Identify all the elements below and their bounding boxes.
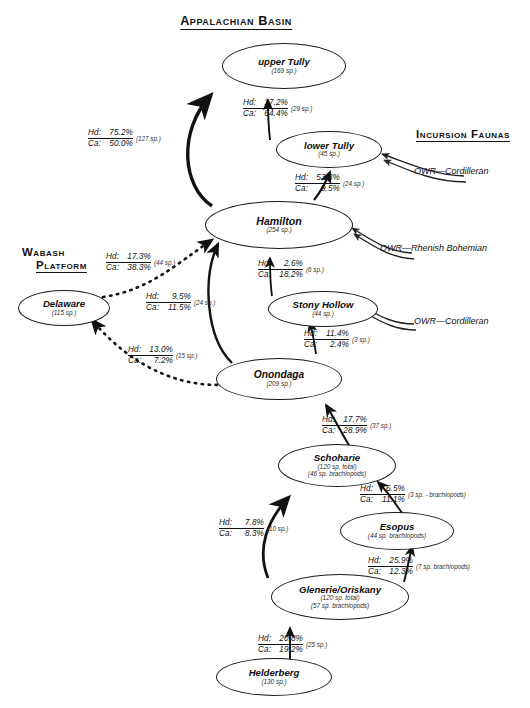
edge-label-glenerie-to-schoharie: Hd:7.8% Ca:8.3% (10 sp.) bbox=[219, 518, 264, 538]
node-sublabel-2: (57 sp. brachiopods) bbox=[311, 603, 369, 610]
edge-label-schoharie-to-onondaga: Hd:17.7% Ca:28.9% (37 sp.) bbox=[322, 415, 367, 435]
node-delaware[interactable]: Delaware (115 sp.) bbox=[18, 290, 110, 326]
hd-value: 9.5% bbox=[161, 292, 191, 301]
node-onondaga[interactable]: Onondaga (209 sp.) bbox=[216, 358, 342, 400]
ca-key: Ca: bbox=[146, 303, 161, 312]
node-esopus[interactable]: Esopus (44 sp. brachiopods) bbox=[340, 512, 454, 550]
ca-key: Ca: bbox=[219, 529, 234, 538]
node-schoharie[interactable]: Schoharie (120 sp. total) (46 sp. brachi… bbox=[278, 444, 396, 487]
ca-value: 7.2% bbox=[143, 356, 173, 365]
ca-value: 9.5% bbox=[310, 184, 340, 193]
edge-label-onondaga-to-hamilton: Hd:9.5% Ca:11.5% (24 sp.) bbox=[146, 292, 191, 312]
hd-key: Hd: bbox=[322, 415, 337, 424]
species-count: (24 sp.) bbox=[194, 299, 215, 306]
node-sublabel: (44 sp. brachiopods) bbox=[368, 533, 426, 540]
node-sublabel: (115 sp.) bbox=[52, 310, 77, 317]
node-label: Delaware bbox=[43, 299, 85, 309]
hd-value: 53.3% bbox=[310, 173, 340, 182]
node-lower-tully[interactable]: lower Tully (45 sp.) bbox=[276, 131, 382, 168]
edge-label-hamilton-to-lower-tully: Hd:53.3% Ca:9.5% (24 sp.) bbox=[295, 173, 340, 193]
hd-value: 2.6% bbox=[273, 259, 303, 268]
species-count: (6 sp.) bbox=[306, 266, 324, 273]
species-count: (44 sp.) bbox=[154, 259, 175, 266]
node-sublabel: (45 sp.) bbox=[318, 151, 340, 158]
ca-key: Ca: bbox=[106, 263, 121, 272]
hd-value: 17.2% bbox=[258, 98, 288, 107]
node-label: Esopus bbox=[380, 522, 415, 532]
ca-key: Ca: bbox=[295, 184, 310, 193]
node-sublabel-2: (46 sp. brachiopods) bbox=[308, 471, 366, 478]
ca-key: Ca: bbox=[304, 340, 319, 349]
hd-key: Hd: bbox=[88, 128, 103, 137]
edge-label-onondaga-to-stony-hollow: Hd:11.4% Ca:2.4% (3 sp.) bbox=[304, 329, 349, 349]
ca-key: Ca: bbox=[258, 270, 273, 279]
species-count: (127 sp.) bbox=[136, 135, 161, 142]
hd-value: 17.7% bbox=[337, 415, 367, 424]
edge-label-lower-tully-to-upper-tully: Hd:17.2% Ca:64.4% (29 sp.) bbox=[243, 98, 288, 118]
hd-value: 25.9% bbox=[383, 556, 413, 565]
node-sublabel: (209 sp.) bbox=[266, 381, 291, 388]
label-owr-cordilleran-stony: OWR—Cordilleran bbox=[414, 316, 489, 326]
species-count: (37 sp.) bbox=[370, 422, 391, 429]
node-label: Glenerie/Oriskany bbox=[299, 585, 381, 595]
species-count: (10 sp.) bbox=[267, 525, 288, 532]
hd-key: Hd: bbox=[219, 518, 234, 527]
node-label: Helderberg bbox=[249, 668, 300, 678]
heading-incursion-faunas: Incursion Faunas bbox=[416, 128, 510, 142]
edge-label-stony-hollow-to-hamilton: Hd:2.6% Ca:18.2% (6 sp.) bbox=[258, 259, 303, 279]
hd-value: 11.4% bbox=[319, 329, 349, 338]
hd-key: Hd: bbox=[258, 259, 273, 268]
hd-key: Hd: bbox=[258, 634, 273, 643]
species-count: (29 sp.) bbox=[291, 105, 312, 112]
ca-key: Ca: bbox=[322, 426, 337, 435]
ca-key: Ca: bbox=[368, 567, 383, 576]
node-sublabel: (130 sp.) bbox=[261, 679, 286, 686]
node-glenerie-oriskany[interactable]: Glenerie/Oriskany (120 sp. total) (57 sp… bbox=[271, 574, 409, 620]
hd-key: Hd: bbox=[295, 173, 310, 182]
node-label: Onondaga bbox=[254, 370, 304, 381]
node-label: Stony Hollow bbox=[293, 300, 354, 310]
hd-value: 17.3% bbox=[121, 252, 151, 261]
ca-value: 12.3% bbox=[383, 567, 413, 576]
ca-value: 11.5% bbox=[161, 303, 191, 312]
ca-value: 28.9% bbox=[337, 426, 367, 435]
edge-label-onondaga-to-delaware: Hd:13.0% Ca:7.2% (15 sp.) bbox=[128, 345, 173, 365]
heading-appalachian-basin: Appalachian Basin bbox=[180, 14, 292, 30]
ca-value: 50.0% bbox=[103, 139, 133, 148]
edge-glenerie-to-schoharie bbox=[263, 498, 288, 578]
hd-key: Hd: bbox=[243, 98, 258, 107]
node-helderberg[interactable]: Helderberg (130 sp.) bbox=[216, 658, 332, 696]
ca-value: 19.2% bbox=[273, 645, 303, 654]
node-label: upper Tully bbox=[258, 57, 310, 67]
diagram-canvas: Appalachian Basin Incursion Faunas Wabas… bbox=[0, 0, 530, 708]
node-label: Schoharie bbox=[314, 453, 360, 463]
hd-value: 7.8% bbox=[234, 518, 264, 527]
edge-label-hamilton-to-upper-tully: Hd:75.2% Ca:50.0% (127 sp.) bbox=[88, 128, 133, 148]
ca-value: 11.1% bbox=[375, 495, 405, 504]
node-label: Hamilton bbox=[256, 216, 301, 227]
node-sublabel: (254 sp.) bbox=[266, 227, 291, 234]
node-sublabel: (169 sp.) bbox=[271, 68, 296, 75]
hd-value: 20.8% bbox=[273, 634, 303, 643]
edge-label-esopus-to-schoharie: Hd:6.5% Ca:11.1% (3 sp. - brachiopods) bbox=[360, 484, 405, 504]
ca-value: 2.4% bbox=[319, 340, 349, 349]
label-owr-cordilleran-tully: OWR—Cordilleran bbox=[414, 166, 489, 176]
node-upper-tully[interactable]: upper Tully (169 sp.) bbox=[222, 43, 346, 89]
species-count: (15 sp.) bbox=[176, 352, 197, 359]
ca-key: Ca: bbox=[360, 495, 375, 504]
node-hamilton[interactable]: Hamilton (254 sp.) bbox=[205, 201, 353, 249]
ca-key: Ca: bbox=[243, 109, 258, 118]
ca-key: Ca: bbox=[88, 139, 103, 148]
hd-key: Hd: bbox=[368, 556, 383, 565]
edge-label-helderberg-to-glenerie: Hd:20.8% Ca:19.2% (25 sp.) bbox=[258, 634, 303, 654]
node-stony-hollow[interactable]: Stony Hollow (44 sp.) bbox=[268, 291, 378, 327]
species-count: (7 sp. brachiopods) bbox=[416, 563, 470, 570]
ca-value: 64.4% bbox=[258, 109, 288, 118]
ca-key: Ca: bbox=[258, 645, 273, 654]
hd-key: Hd: bbox=[106, 252, 121, 261]
edge-label-glenerie-to-esopus: Hd:25.9% Ca:12.3% (7 sp. brachiopods) bbox=[368, 556, 413, 576]
node-sublabel: (44 sp.) bbox=[312, 311, 334, 318]
hd-key: Hd: bbox=[360, 484, 375, 493]
species-count: (24 sp.) bbox=[343, 180, 364, 187]
ca-value: 8.3% bbox=[234, 529, 264, 538]
